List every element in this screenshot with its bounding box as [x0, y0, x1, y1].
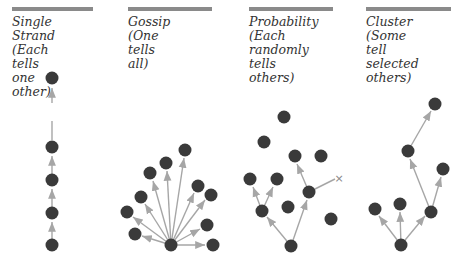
- probability-nodes: [244, 111, 338, 253]
- cluster-nodes: [369, 98, 450, 252]
- network-diagrams: ×: [0, 0, 467, 269]
- cluster-diagram: [379, 111, 441, 245]
- terminated-x-icon: ×: [334, 172, 343, 185]
